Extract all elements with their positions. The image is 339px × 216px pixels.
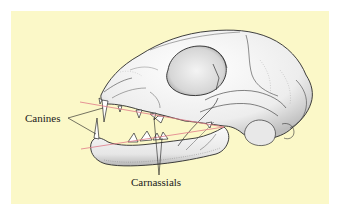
canines-leader-upper bbox=[68, 108, 103, 118]
lower-canine bbox=[94, 118, 99, 139]
upper-canine bbox=[102, 100, 108, 122]
lower-teeth bbox=[94, 118, 168, 142]
canines-leader-lower bbox=[68, 118, 96, 134]
canines-label: Canines bbox=[25, 113, 60, 124]
carnassials-label: Carnassials bbox=[131, 177, 181, 188]
